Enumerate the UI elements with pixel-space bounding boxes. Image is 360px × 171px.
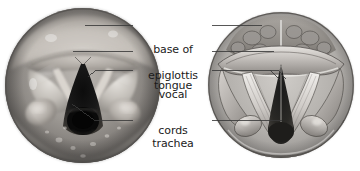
label-trachea: trachea [137, 113, 209, 171]
anatomical-illustration-panel [208, 12, 354, 158]
anatomy-figure: base of tongue epiglottis vocal cords tr… [0, 0, 360, 171]
label-vocal-cords-line1: vocal [137, 89, 209, 101]
anatomical-illustration-image [208, 12, 354, 158]
label-trachea-line1: trachea [137, 138, 209, 150]
